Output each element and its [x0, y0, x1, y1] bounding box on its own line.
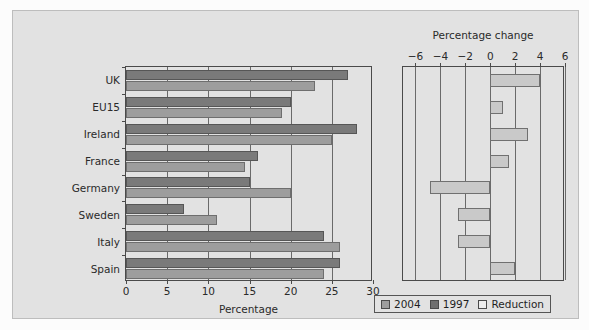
left-ylabel-spain: Spain: [91, 263, 120, 275]
right-xticklabel-6: 6: [562, 50, 569, 62]
left-ytick-spain: [122, 255, 126, 256]
left-ylabel-germany: Germany: [72, 182, 120, 194]
right-xtick--6: [415, 63, 416, 67]
left-ytick-france: [122, 148, 126, 149]
left-axis-title: Percentage: [125, 303, 372, 315]
right-chart-plot-area: −6−4−20246: [402, 66, 564, 281]
left-ylabel-france: France: [85, 155, 120, 167]
left-ytick-uk: [122, 67, 126, 68]
left-xticklabel-10: 10: [202, 285, 215, 297]
left-xticklabel-20: 20: [284, 285, 297, 297]
left-bar-2004-italy: [126, 242, 340, 252]
right-gridline-0: [490, 67, 491, 280]
right-xtick-2: [515, 63, 516, 67]
screenshot-root: Percentage 0510152025 UKEU15IrelandFranc…: [0, 0, 589, 330]
left-ytick-ireland: [122, 121, 126, 122]
legend-swatch-2004: [381, 300, 390, 309]
right-xticklabel--4: −4: [433, 50, 448, 62]
right-gridline--6: [415, 67, 416, 280]
legend-item-2004: 2004: [381, 298, 421, 310]
left-row-uk: UK: [126, 67, 371, 94]
left-bar-2004-france: [126, 162, 245, 172]
right-xtick-0: [490, 63, 491, 67]
right-xticklabel-0: 0: [487, 50, 494, 62]
left-bar-1997-germany: [126, 177, 250, 187]
left-ylabel-sweden: Sweden: [79, 209, 121, 221]
left-row-italy: Italy: [126, 228, 371, 255]
legend-label-1997: 1997: [443, 298, 470, 310]
right-bar-reduction-germany: [430, 181, 490, 194]
right-bar-reduction-eu15: [490, 101, 502, 114]
left-ylabel-italy: Italy: [97, 236, 120, 248]
left-ylabel-uk: UK: [105, 74, 120, 86]
left-ylabel-ireland: Ireland: [84, 128, 120, 140]
left-xticklabel-0: 0: [123, 285, 130, 297]
left-bar-2004-eu15: [126, 108, 282, 118]
left-bar-2004-uk: [126, 81, 315, 91]
right-xticklabel-4: 4: [537, 50, 544, 62]
right-xticklabel-2: 2: [512, 50, 519, 62]
left-row-france: France: [126, 148, 371, 175]
left-ytick-italy: [122, 228, 126, 229]
left-bar-2004-spain: [126, 269, 324, 279]
right-xticklabel--2: −2: [458, 50, 473, 62]
left-bar-2004-ireland: [126, 135, 332, 145]
right-bar-reduction-sweden: [458, 208, 490, 221]
left-ylabel-eu15: EU15: [92, 101, 120, 113]
figure-panel: Percentage 0510152025 UKEU15IrelandFranc…: [12, 10, 579, 319]
left-bar-1997-italy: [126, 231, 324, 241]
left-row-spain: Spain: [126, 255, 371, 282]
left-xticklabel-25: 25: [325, 285, 338, 297]
left-ytick-eu15: [122, 94, 126, 95]
left-ytick-germany: [122, 175, 126, 176]
left-bar-1997-eu15: [126, 97, 291, 107]
legend-item-1997: 1997: [430, 298, 470, 310]
right-xtick--2: [465, 63, 466, 67]
left-bar-1997-ireland: [126, 124, 357, 134]
left-bar-1997-uk: [126, 70, 348, 80]
left-bar-2004-germany: [126, 188, 291, 198]
left-row-ireland: Ireland: [126, 121, 371, 148]
right-gridline-4: [540, 67, 541, 280]
left-bar-1997-sweden: [126, 204, 184, 214]
left-bar-1997-france: [126, 151, 258, 161]
chart-legend: 2004 1997 Reduction: [374, 295, 551, 313]
left-row-eu15: EU15: [126, 94, 371, 121]
legend-label-2004: 2004: [394, 298, 421, 310]
left-bar-1997-spain: [126, 258, 340, 268]
right-bar-reduction-uk: [490, 74, 540, 87]
left-row-germany: Germany: [126, 175, 371, 202]
right-bar-reduction-ireland: [490, 128, 527, 141]
right-bar-reduction-italy: [458, 235, 490, 248]
left-xticklabel-15: 15: [243, 285, 256, 297]
right-xticklabel--6: −6: [408, 50, 423, 62]
legend-swatch-reduction: [478, 300, 487, 309]
right-axis-title: Percentage change: [402, 29, 564, 41]
right-bar-reduction-spain: [490, 262, 515, 275]
left-ytick-sweden: [122, 201, 126, 202]
left-chart-plot-area: 0510152025 UKEU15IrelandFranceGermanySwe…: [125, 66, 372, 281]
right-bar-reduction-france: [490, 155, 509, 168]
legend-item-reduction: Reduction: [478, 298, 544, 310]
left-xticklabel-5: 5: [164, 285, 171, 297]
right-gridline-6: [565, 67, 566, 280]
right-xtick-6: [565, 63, 566, 67]
left-xtick-30: [373, 280, 374, 284]
legend-swatch-1997: [430, 300, 439, 309]
right-gridline-2: [515, 67, 516, 280]
right-gridline--4: [440, 67, 441, 280]
legend-label-reduction: Reduction: [491, 298, 544, 310]
left-row-sweden: Sweden: [126, 201, 371, 228]
right-xtick--4: [440, 63, 441, 67]
left-bar-2004-sweden: [126, 215, 217, 225]
right-xtick-4: [540, 63, 541, 67]
